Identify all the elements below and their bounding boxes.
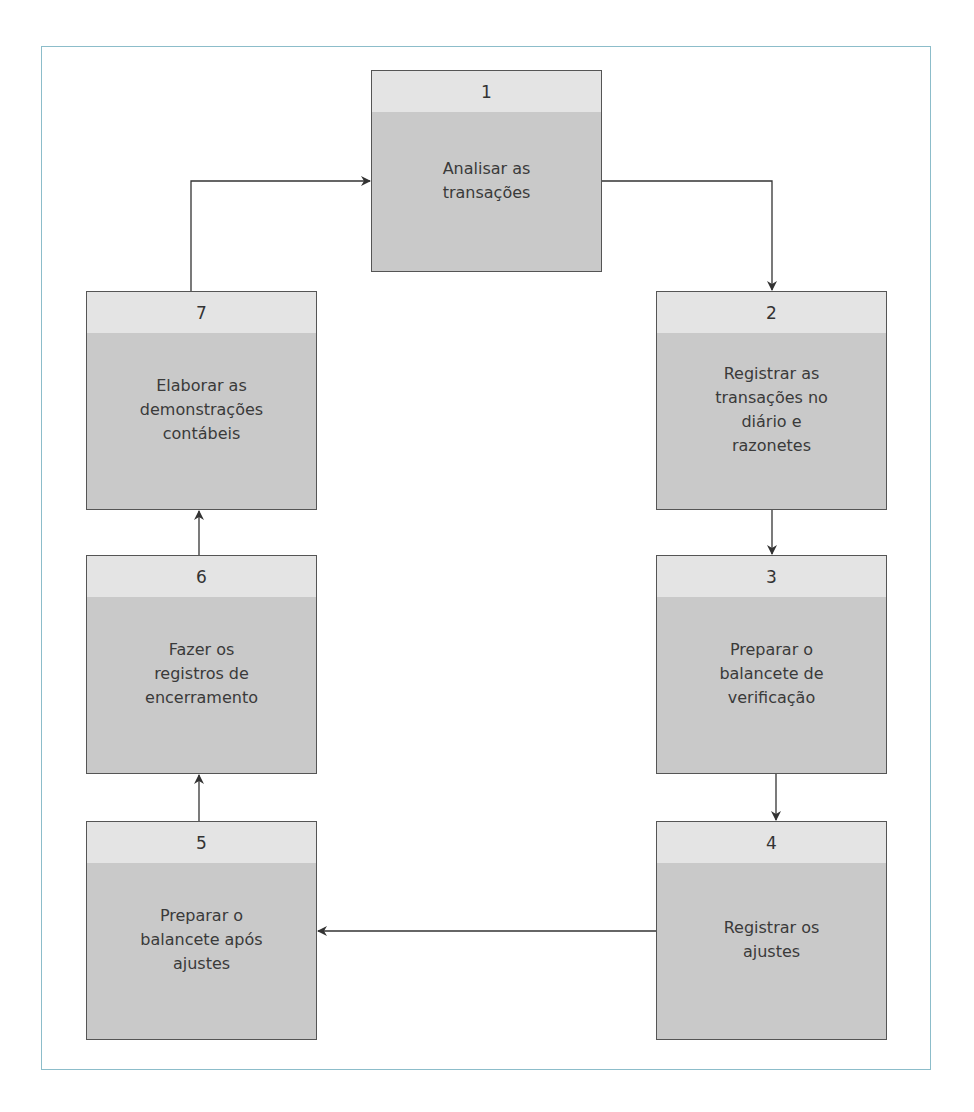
step-box-3: 3 Preparar o balancete de verificação — [656, 555, 887, 774]
step-box-1: 1 Analisar as transações — [371, 70, 602, 272]
step-number: 7 — [87, 292, 316, 333]
step-number: 2 — [657, 292, 886, 333]
step-box-2: 2 Registrar as transações no diário e ra… — [656, 291, 887, 510]
step-label: Fazer os registros de encerramento — [87, 597, 316, 773]
step-number: 1 — [372, 71, 601, 112]
step-number: 5 — [87, 822, 316, 863]
step-label: Elaborar as demonstrações contábeis — [87, 333, 316, 509]
step-label: Registrar os ajustes — [657, 863, 886, 1039]
step-number: 4 — [657, 822, 886, 863]
step-label: Preparar o balancete de verificação — [657, 597, 886, 773]
step-label: Registrar as transações no diário e razo… — [657, 333, 886, 509]
step-number: 3 — [657, 556, 886, 597]
step-box-7: 7 Elaborar as demonstrações contábeis — [86, 291, 317, 510]
step-label: Preparar o balancete após ajustes — [87, 863, 316, 1039]
step-number: 6 — [87, 556, 316, 597]
step-box-4: 4 Registrar os ajustes — [656, 821, 887, 1040]
step-label: Analisar as transações — [372, 112, 601, 271]
step-box-6: 6 Fazer os registros de encerramento — [86, 555, 317, 774]
step-box-5: 5 Preparar o balancete após ajustes — [86, 821, 317, 1040]
